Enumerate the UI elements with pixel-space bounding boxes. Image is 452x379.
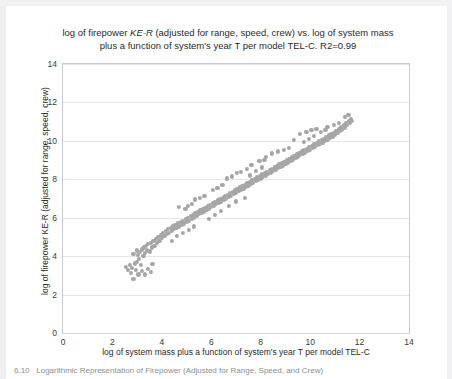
chart-title-part1: log of firepower xyxy=(62,27,130,38)
scatter-point xyxy=(149,269,153,273)
scatter-point xyxy=(298,132,302,136)
scatter-point xyxy=(270,151,274,155)
scatter-point xyxy=(192,224,196,228)
scatter-point xyxy=(207,217,211,221)
page-margin-right xyxy=(447,0,452,379)
scatter-point xyxy=(210,188,214,192)
scatter-point xyxy=(314,127,318,131)
scatter-point xyxy=(312,134,316,138)
scatter-point xyxy=(287,145,291,149)
scatter-point xyxy=(139,263,143,267)
scatter-point xyxy=(247,173,251,177)
scatter-point xyxy=(137,257,141,261)
x-tick-label: 4 xyxy=(159,337,164,347)
x-tick-label: 2 xyxy=(110,337,115,347)
scatter-point xyxy=(177,205,181,209)
y-gridline xyxy=(63,295,409,296)
y-gridline xyxy=(63,102,409,103)
y-axis-label: log of firepower KE-R (adjusted for rang… xyxy=(40,66,50,316)
scatter-point xyxy=(131,277,135,281)
plot-area: 0246810121402468101214 xyxy=(62,63,410,334)
x-tick-label: 12 xyxy=(355,337,364,347)
scatter-point xyxy=(323,128,327,132)
page-background: log of firepower KE-R (adjusted for rang… xyxy=(0,0,452,379)
scatter-point xyxy=(282,147,286,151)
scatter-point xyxy=(220,183,224,187)
scatter-point xyxy=(181,231,185,235)
x-tick-label: 14 xyxy=(404,337,413,347)
figure-caption: 6.10 Logarithmic Representation of Firep… xyxy=(14,366,444,375)
chart-title: log of firepower KE-R (adjusted for rang… xyxy=(48,26,408,52)
scatter-point xyxy=(264,155,268,159)
scatter-point xyxy=(260,165,264,169)
y-tick-label: 2 xyxy=(52,290,57,300)
chart-title-italic: KE-R xyxy=(130,27,153,38)
scatter-point xyxy=(336,121,340,125)
scatter-point xyxy=(302,140,306,144)
scatter-point xyxy=(134,267,138,271)
scatter-point xyxy=(257,159,261,163)
y-tick-label: 8 xyxy=(52,174,57,184)
scatter-point xyxy=(239,170,243,174)
chart-title-part2: (adjusted for range, speed, crew) vs. lo… xyxy=(153,27,394,38)
scatter-point xyxy=(226,204,230,208)
scatter-point xyxy=(219,209,223,213)
y-gridline xyxy=(63,333,409,334)
scatter-point xyxy=(213,213,217,217)
scatter-point xyxy=(193,197,197,201)
x-tick-label: 0 xyxy=(61,337,66,347)
scatter-point xyxy=(189,202,193,206)
scatter-point xyxy=(175,234,179,238)
y-tick-label: 0 xyxy=(52,328,57,338)
scatter-point xyxy=(276,149,280,153)
scatter-point xyxy=(129,271,133,275)
scatter-point xyxy=(243,195,247,199)
y-gridline xyxy=(63,64,409,65)
scatter-point xyxy=(170,239,174,243)
scatter-point xyxy=(202,194,206,198)
y-gridline xyxy=(63,179,409,180)
scatter-point xyxy=(254,169,258,173)
scatter-point xyxy=(215,186,219,190)
y-gridline xyxy=(63,218,409,219)
scatter-point xyxy=(147,249,151,253)
figure-caption-number: 6.10 xyxy=(14,366,30,375)
y-axis-label-text: log of firepower KE-R (adjusted for rang… xyxy=(40,87,50,295)
scatter-point xyxy=(142,272,146,276)
figure-caption-text: Logarithmic Representation of Firepower … xyxy=(36,366,323,375)
scatter-point xyxy=(350,119,354,123)
x-tick-label: 6 xyxy=(209,337,214,347)
scatter-point xyxy=(150,262,154,266)
scatter-point xyxy=(245,167,249,171)
x-tick-label: 10 xyxy=(305,337,314,347)
scatter-point xyxy=(230,174,234,178)
chart-figure: log of firepower KE-R (adjusted for rang… xyxy=(6,6,447,354)
scatter-point xyxy=(309,128,313,132)
scatter-point xyxy=(136,272,140,276)
y-gridline xyxy=(63,141,409,142)
scatter-point xyxy=(187,228,191,232)
y-tick-label: 4 xyxy=(52,251,57,261)
scatter-point xyxy=(249,163,253,167)
x-axis-label: log of system mass plus a function of sy… xyxy=(62,347,410,357)
chart-title-line2: plus a function of system's year T per m… xyxy=(100,40,357,51)
scatter-point xyxy=(332,122,336,126)
y-gridline xyxy=(63,256,409,257)
y-tick-label: 6 xyxy=(52,213,57,223)
scatter-point xyxy=(304,130,308,134)
scatter-point xyxy=(234,199,238,203)
x-tick-label: 8 xyxy=(258,337,263,347)
